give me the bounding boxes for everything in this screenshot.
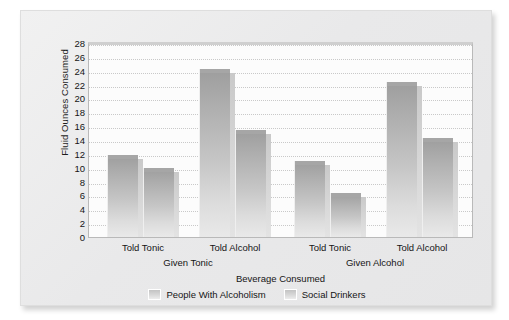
chart-figure: Fluid Ounces Consumed 282624222018161412… (20, 10, 492, 306)
x-axis-tick-label-4: Told Alcohol (397, 242, 448, 253)
y-axis-tick-16: 16 (74, 122, 85, 132)
y-axis-tick-4: 4 (80, 206, 85, 216)
x-axis-tick-label-3: Told Tonic (309, 242, 351, 253)
x-axis-group-label-1: Given Tonic (163, 257, 212, 268)
y-axis-tick-2: 2 (80, 219, 85, 229)
y-axis-tick-26: 26 (74, 53, 85, 63)
y-axis-tick-18: 18 (74, 109, 85, 119)
x-axis-tick-label-1: Told Tonic (122, 242, 164, 253)
legend-swatch-alcoholism (148, 289, 161, 300)
y-axis-tick-24: 24 (74, 67, 85, 77)
y-axis-tick-6: 6 (80, 192, 85, 202)
y-axis-tick-14: 14 (74, 136, 85, 146)
bar-8 (422, 138, 453, 237)
bar-1 (107, 155, 138, 237)
legend-label-1: People With Alcoholism (166, 289, 265, 300)
bar-4 (235, 130, 266, 237)
x-axis-tick-label-2: Told Alcohol (210, 242, 261, 253)
x-axis-group-label-2: Given Alcohol (346, 257, 404, 268)
legend-label-2: Social Drinkers (302, 289, 366, 300)
y-axis-tick-10: 10 (74, 164, 85, 174)
bar-2 (143, 168, 174, 237)
bar-7 (386, 82, 417, 237)
legend-item-1: People With Alcoholism (148, 289, 265, 300)
y-axis-tick-labels: 2826242220181614121086420 (61, 42, 85, 238)
y-axis-tick-22: 22 (74, 81, 85, 91)
legend-item-2: Social Drinkers (284, 289, 366, 300)
legend-swatch-social (284, 289, 297, 300)
bar-series-container (89, 43, 472, 237)
y-axis-tick-28: 28 (74, 39, 85, 49)
y-axis-tick-12: 12 (74, 150, 85, 160)
bar-3 (199, 69, 230, 237)
y-axis-tick-20: 20 (74, 95, 85, 105)
scanned-page: Fluid Ounces Consumed 282624222018161412… (0, 0, 509, 320)
chart-legend: People With AlcoholismSocial Drinkers (21, 289, 493, 300)
y-axis-tick-8: 8 (80, 178, 85, 188)
y-axis-tick-0: 0 (80, 233, 85, 243)
bar-6 (330, 193, 361, 237)
bar-5 (294, 161, 325, 237)
x-axis-title: Beverage Consumed (88, 273, 473, 284)
